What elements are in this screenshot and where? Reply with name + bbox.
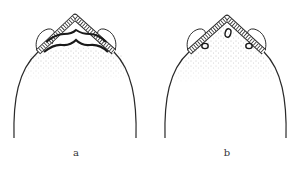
figure-label-b: b [217,147,237,158]
figure-b: b [150,0,299,176]
figure-a: a [0,0,150,176]
figure-label-a: a [66,147,86,158]
